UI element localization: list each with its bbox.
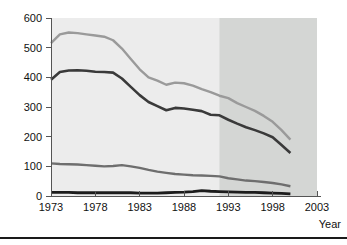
x-tick-label: 1983 bbox=[127, 201, 151, 213]
shaded-region bbox=[219, 18, 317, 196]
x-axis-title: Year bbox=[319, 218, 342, 230]
x-tick-label: 1973 bbox=[39, 201, 63, 213]
footer-rule bbox=[0, 237, 347, 239]
y-tick-label: 300 bbox=[24, 101, 42, 113]
y-tick-label: 100 bbox=[24, 160, 42, 172]
x-tick-label: 1978 bbox=[83, 201, 107, 213]
y-tick-label: 600 bbox=[24, 12, 42, 24]
x-tick-label: 1988 bbox=[172, 201, 196, 213]
y-tick-label: 400 bbox=[24, 71, 42, 83]
line-chart-figure: 0100200300400500600 19731978198319881993… bbox=[0, 0, 347, 245]
y-tick-label: 500 bbox=[24, 42, 42, 54]
y-tick-group: 0100200300400500600 bbox=[24, 12, 51, 202]
x-tick-label: 2003 bbox=[305, 201, 329, 213]
x-tick-label: 1993 bbox=[216, 201, 240, 213]
y-tick-label: 200 bbox=[24, 131, 42, 143]
chart-canvas: 0100200300400500600 19731978198319881993… bbox=[0, 0, 347, 245]
plot-background-group bbox=[51, 18, 317, 196]
x-tick-label: 1998 bbox=[260, 201, 284, 213]
